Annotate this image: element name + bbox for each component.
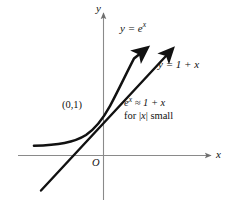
origin-label: O (92, 157, 100, 169)
exponential-curve-label-exponent: x (143, 20, 146, 29)
annotation-line-1: ex ≈ 1 + x (124, 97, 165, 108)
exponential-curve-label: y = ex (120, 22, 146, 35)
plot-canvas (0, 0, 232, 209)
tangent-line-label: y = 1 + x (158, 58, 199, 71)
annotation-relation: ≈ 1 + x (132, 97, 165, 108)
approximation-annotation: ex ≈ 1 + x for |x| small (124, 97, 173, 122)
linear-approximation-figure: y x O y = ex y = 1 + x (0,1) ex ≈ 1 + x … (0, 0, 232, 209)
annotation-small-text: small (148, 110, 173, 121)
y-axis-label: y (96, 2, 101, 15)
x-axis-label: x (216, 148, 221, 161)
annotation-line-2: for |x| small (124, 110, 173, 122)
tangency-point-label: (0,1) (62, 99, 82, 111)
annotation-for-text: for (124, 110, 139, 121)
exponential-curve-label-text: y = e (120, 22, 143, 34)
